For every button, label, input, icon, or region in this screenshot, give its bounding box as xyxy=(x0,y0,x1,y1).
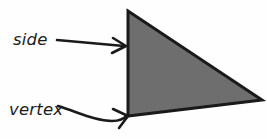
vertex-label: vertex xyxy=(9,100,63,119)
side-label: side xyxy=(13,30,48,49)
diagram-canvas: side vertex xyxy=(0,0,267,139)
triangle-figure: side vertex xyxy=(0,0,267,139)
